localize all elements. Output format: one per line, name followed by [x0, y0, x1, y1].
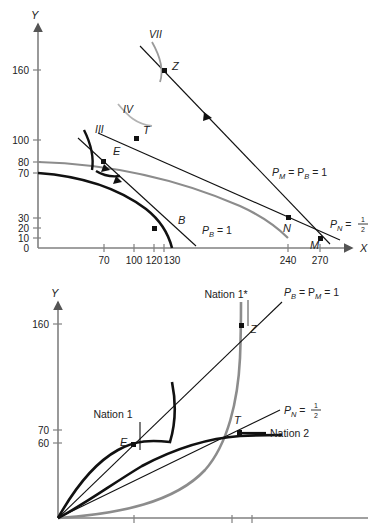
price-label-pb: PB = 1 — [202, 224, 232, 239]
point-label-E: E — [113, 145, 121, 157]
x-tick-240: 240 — [280, 255, 297, 266]
point-label-B: B — [178, 214, 185, 226]
x-tick-120: 120 — [146, 255, 163, 266]
curve-label-iii: III — [95, 123, 104, 135]
point-label-N: N — [283, 222, 291, 234]
bottom-chart-panel: Y 160 70 60 Z T E Nation 1* Nation 1 Nat… — [0, 270, 381, 523]
y-tick-80: 80 — [18, 157, 30, 168]
x-axis-label: X — [359, 242, 368, 254]
x-tick-70: 70 — [98, 255, 110, 266]
indifference-arc-vii — [152, 42, 162, 82]
top-chart-panel: X Y 160 100 80 70 30 20 10 0 70 100 120 … — [0, 0, 381, 270]
pn-fraction-numerator: 1 — [361, 216, 365, 223]
offer-curve-nation-1 — [58, 382, 175, 518]
y-axis-label-bottom: Y — [51, 287, 59, 299]
pn-fraction-numerator-bottom: 1 — [314, 402, 318, 409]
pn-fraction-denominator-bottom: 2 — [314, 412, 318, 419]
point-marker-E — [101, 159, 106, 164]
y-tick-bottom-160: 160 — [32, 319, 49, 330]
point-label-Z: Z — [171, 60, 180, 72]
point-marker-B — [152, 226, 157, 231]
price-label-pm-pb: PM = PB = 1 — [272, 166, 327, 181]
point-marker-N — [286, 215, 291, 220]
label-nation-1-star: Nation 1* — [204, 288, 247, 300]
offer-curve-nation-2 — [58, 435, 282, 518]
y-tick-bottom-70: 70 — [38, 425, 50, 436]
y-tick-bottom-60: 60 — [38, 438, 50, 449]
y-tick-70: 70 — [18, 168, 30, 179]
label-nation-1: Nation 1 — [93, 408, 132, 420]
offer-curve-nation-1-star — [58, 302, 241, 518]
point-label-E-bottom: E — [120, 436, 128, 448]
x-tick-270: 270 — [312, 255, 329, 266]
x-tick-marks-bottom — [134, 515, 252, 523]
x-tick-100: 100 — [126, 255, 143, 266]
top-chart-svg: X Y 160 100 80 70 30 20 10 0 70 100 120 … — [0, 0, 381, 270]
point-label-Z-bottom: Z — [249, 323, 258, 335]
y-tick-160: 160 — [12, 65, 29, 76]
point-marker-Z — [162, 68, 167, 73]
price-line-pm-pb-1 — [140, 46, 330, 244]
price-label-pb-pm-bottom: PB = PM = 1 — [284, 286, 339, 301]
y-axis-label: Y — [31, 9, 39, 21]
pn-fraction-denominator: 2 — [361, 226, 365, 233]
price-label-pn: PN = 1 2 — [330, 216, 368, 233]
point-marker-E-bottom — [131, 442, 136, 447]
point-marker-Z-bottom — [239, 323, 244, 328]
indifference-arc-iii — [84, 130, 93, 170]
curve-label-iv: IV — [123, 103, 134, 115]
curve-label-vii: VII — [149, 28, 162, 40]
y-tick-marks — [33, 70, 41, 238]
price-line-pn-bottom — [58, 410, 280, 518]
svg-text:PN =: PN = — [284, 404, 306, 419]
y-tick-100: 100 — [12, 135, 29, 146]
price-label-pn-bottom: PN = 1 2 — [284, 402, 321, 419]
x-tick-130: 130 — [164, 255, 181, 266]
point-marker-T-bottom — [237, 430, 242, 435]
point-label-T-bottom: T — [234, 414, 242, 426]
point-label-M: M — [310, 239, 320, 251]
price-line-pb-1 — [78, 138, 196, 246]
svg-text:PN =: PN = — [330, 218, 352, 233]
point-marker-T — [134, 136, 139, 141]
label-nation-2: Nation 2 — [270, 427, 309, 439]
ppf-curve-nation-1 — [38, 173, 172, 248]
bottom-chart-svg: Y 160 70 60 Z T E Nation 1* Nation 1 Nat… — [0, 270, 381, 523]
price-line-pb-pm-bottom — [58, 302, 282, 518]
y-tick-0: 0 — [23, 243, 29, 254]
